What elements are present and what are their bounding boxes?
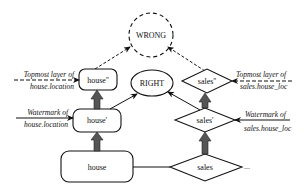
wrong-node: WRONG xyxy=(129,13,173,57)
edge-house1-right xyxy=(110,94,137,109)
annotation-right-wm-2: sales.house_loc xyxy=(244,124,292,133)
thick-arrow-house1-house2 xyxy=(91,90,103,109)
thick-arrow-house-house1 xyxy=(91,132,103,151)
annotation-left-wm-1: Watermark of xyxy=(27,108,69,117)
house1-node: house' xyxy=(73,109,121,132)
right-node: RIGHT xyxy=(131,70,173,96)
sales2-node: sales'' xyxy=(182,69,232,93)
annotation-right-top-1: Topmost layer of xyxy=(236,70,287,79)
dashed-edge-sales2-wrong xyxy=(168,47,205,71)
annotation-left-top-2: house.location xyxy=(30,82,74,91)
annotation-right-top-2: sales.house_loc xyxy=(240,82,288,91)
annotation-right-wm-1: Watermark of xyxy=(245,110,287,119)
annotation-left-top-1: Topmost layer of xyxy=(24,70,75,79)
ellipsis-text: ... xyxy=(244,162,250,171)
house0-node: house xyxy=(61,151,133,182)
diagram-canvas: WRONG house'' RIGHT sales'' house' sales… xyxy=(0,0,307,193)
house1-label: house' xyxy=(87,116,108,125)
house0-label: house xyxy=(88,163,107,172)
sales0-node: sales xyxy=(170,154,242,181)
dashed-edge-house2-wrong xyxy=(95,47,130,69)
wrong-label: WRONG xyxy=(136,31,166,40)
house2-label: house'' xyxy=(87,76,109,85)
thick-arrow-sales-sales1 xyxy=(199,132,211,154)
sales1-label: sales' xyxy=(197,116,215,125)
sales0-label: sales xyxy=(197,163,213,172)
house2-node: house'' xyxy=(79,69,117,90)
right-label: RIGHT xyxy=(140,79,165,88)
thick-arrow-sales1-sales2 xyxy=(199,93,211,108)
annotation-left-wm-2: house.location xyxy=(24,120,68,129)
sales1-node: sales' xyxy=(175,108,235,132)
sales2-label: sales'' xyxy=(198,77,217,86)
edge-sales1-right xyxy=(168,92,200,110)
